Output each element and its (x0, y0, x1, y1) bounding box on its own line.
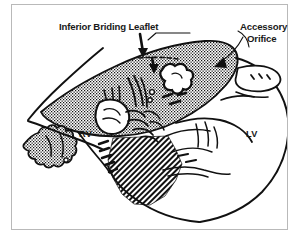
anatomy-illustration: Inferior Briding Leaflet Accessory Orifi… (0, 0, 301, 244)
label-accessory-orifice-line2: Orifice (247, 33, 276, 44)
label-right-ventricle: RV (79, 129, 93, 139)
label-accessory-orifice-line1: Accessory (240, 21, 288, 32)
label-left-ventricle: LV (246, 129, 258, 139)
lv-inner-curves (166, 118, 252, 152)
septal-hatch-band (108, 136, 182, 205)
figure-root: Inferior Briding Leaflet Accessory Orifi… (0, 0, 301, 244)
rv-trabecular-blob (23, 125, 76, 168)
label-inferior-bridging-leaflet: Inferior Briding Leaflet (59, 21, 159, 32)
